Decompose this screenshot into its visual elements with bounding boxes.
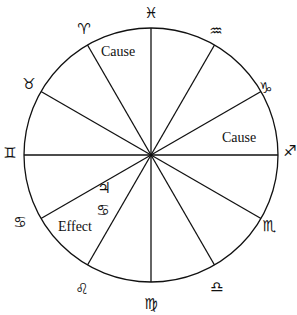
spoke-line: [41, 92, 151, 156]
zodiac-wheel: ♓♒♑♐♏♎♍♌♋♊♉♈ CauseCauseEffect ♃♋: [0, 0, 297, 315]
cause-right-label: Cause: [222, 130, 256, 145]
effect-label: Effect: [58, 219, 92, 234]
sign-glyphs: ♓♒♑♐♏♎♍♌♋♊♉♈: [3, 4, 296, 313]
spoke-line: [151, 155, 215, 265]
wheel-lines: [24, 28, 278, 282]
leo-icon: ♌: [75, 280, 88, 298]
aries-icon: ♈: [77, 20, 90, 38]
cancer-icon: ♋: [13, 213, 26, 231]
cause-top-label: Cause: [101, 44, 135, 59]
inner-glyphs: ♃♋: [96, 179, 110, 219]
scorpio-icon: ♏: [262, 217, 276, 235]
cancer-inner-icon: ♋: [96, 201, 109, 219]
spoke-line: [151, 45, 215, 155]
sagittarius-icon: ♐: [283, 142, 296, 160]
virgo-icon: ♍: [144, 295, 157, 313]
libra-icon: ♎: [210, 278, 223, 296]
sector-labels: CauseCauseEffect: [58, 44, 256, 234]
jupiter-icon: ♃: [97, 179, 110, 197]
capricorn-icon: ♑: [259, 79, 272, 97]
pisces-icon: ♓: [144, 4, 157, 22]
gemini-icon: ♊: [3, 144, 16, 162]
taurus-icon: ♉: [22, 75, 35, 93]
spoke-line: [151, 155, 261, 219]
spoke-line: [88, 45, 152, 155]
spoke-line: [151, 92, 261, 156]
aquarius-icon: ♒: [209, 22, 222, 40]
